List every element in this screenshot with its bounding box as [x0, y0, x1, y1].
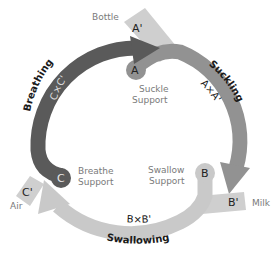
node-a-prime: A': [132, 22, 143, 35]
support-label-swallow-line2: Support: [149, 176, 185, 186]
input-label-bottle: Bottle: [92, 12, 119, 22]
input-air: C' Air: [10, 176, 44, 211]
phase-product-swallowing: B×B': [126, 213, 151, 225]
node-b-prime: B': [228, 196, 239, 209]
node-c: C: [57, 172, 65, 185]
node-c-prime: C': [22, 186, 33, 199]
feeding-cycle-diagram: A' Bottle A C B' Milk C' Air B Suckle Su…: [0, 0, 278, 261]
input-label-milk: Milk: [252, 198, 271, 208]
suckling-arc: A: [126, 51, 250, 194]
support-label-swallow-line1: Swallow: [148, 165, 184, 175]
support-label-suckle-line2: Support: [132, 95, 168, 105]
breathing-band: [38, 48, 138, 176]
input-label-air: Air: [10, 201, 23, 211]
suckling-arrowhead: [220, 162, 250, 194]
node-a: A: [131, 64, 139, 77]
node-b: B: [201, 167, 209, 180]
support-label-suckle-line1: Suckle: [139, 84, 169, 94]
support-label-breathe-line1: Breathe: [78, 166, 114, 176]
support-label-breathe-line2: Support: [78, 177, 114, 187]
